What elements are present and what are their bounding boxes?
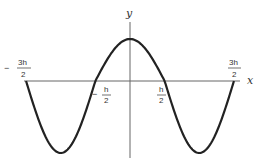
svg-text:3h: 3h xyxy=(229,58,238,67)
svg-text:2: 2 xyxy=(104,96,109,105)
svg-text:3h: 3h xyxy=(18,58,27,67)
svg-text:−: − xyxy=(4,63,9,73)
svg-text:h: h xyxy=(104,85,108,94)
tick-h-over-2: h 2 xyxy=(157,85,166,105)
tick-neg-3h-over-2: − 3h 2 xyxy=(4,58,31,79)
svg-text:2: 2 xyxy=(159,96,164,105)
y-axis-label: y xyxy=(125,7,133,20)
svg-text:2: 2 xyxy=(21,70,26,79)
tick-neg-h-over-2: − h 2 xyxy=(92,85,111,105)
svg-text:h: h xyxy=(159,85,163,94)
tick-3h-over-2: 3h 2 xyxy=(228,58,241,79)
svg-text:−: − xyxy=(92,89,97,99)
wave-diagram: x y − 3h 2 − h 2 h 2 3h 2 xyxy=(0,0,268,164)
svg-text:2: 2 xyxy=(232,70,237,79)
x-axis-label: x xyxy=(247,74,254,87)
